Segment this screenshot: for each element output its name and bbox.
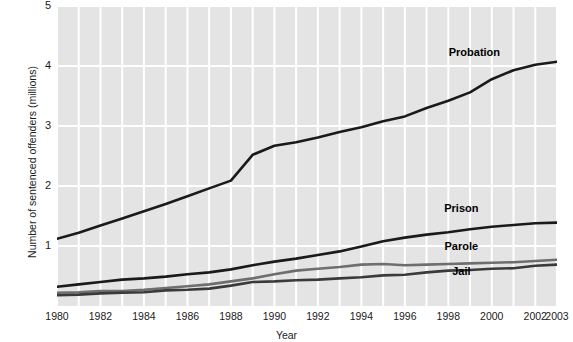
y-axis-ticks: 12345 [0, 0, 51, 342]
series-label-jail: Jail [452, 266, 470, 277]
x-tick-label: 1986 [167, 311, 207, 322]
y-tick-label: 3 [3, 120, 51, 131]
x-tick-label: 2000 [472, 311, 512, 322]
x-tick-label: 1994 [341, 311, 381, 322]
y-tick-label: 4 [3, 60, 51, 71]
x-tick-label: 1982 [80, 311, 120, 322]
series-line-prison [57, 223, 557, 287]
x-tick-label: 1992 [298, 311, 338, 322]
line-chart: Number of sentenced offenders (millions)… [0, 0, 573, 342]
x-tick-label: 1980 [37, 311, 77, 322]
x-tick-label: 1998 [428, 311, 468, 322]
series-line-probation [57, 62, 557, 239]
x-tick-label: 1990 [254, 311, 294, 322]
y-tick-label: 1 [3, 240, 51, 251]
x-tick-label: 1988 [211, 311, 251, 322]
series-line-parole [57, 260, 557, 293]
x-axis-title: Year [0, 329, 573, 341]
series-label-probation: Probation [449, 47, 500, 58]
x-tick-label: 1984 [124, 311, 164, 322]
series-label-prison: Prison [444, 203, 478, 214]
x-tick-label: 2003 [537, 311, 573, 322]
y-tick-label: 5 [3, 0, 51, 11]
y-tick-label: 2 [3, 180, 51, 191]
x-tick-label: 1996 [385, 311, 425, 322]
series-label-parole: Parole [445, 241, 479, 252]
